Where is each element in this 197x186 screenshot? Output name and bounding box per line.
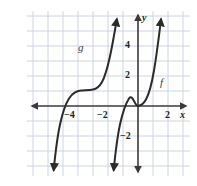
grid-lines bbox=[27, 11, 190, 176]
x-axis-label: x bbox=[180, 110, 185, 120]
x-tick-label-neg2: −2 bbox=[97, 110, 108, 120]
coordinate-plane bbox=[0, 0, 197, 186]
y-axis-label: y bbox=[142, 13, 146, 23]
curve-label-f: f bbox=[160, 77, 163, 88]
graph-figure: −4 −2 2 4 2 −2 x y g f bbox=[0, 0, 197, 186]
y-tick-label-2: 2 bbox=[125, 70, 130, 80]
x-tick-label-pos2: 2 bbox=[165, 110, 170, 120]
y-tick-label-neg2: −2 bbox=[120, 131, 131, 141]
x-tick-label-neg4: −4 bbox=[64, 110, 75, 120]
y-tick-label-4: 4 bbox=[125, 40, 130, 50]
curve-label-g: g bbox=[78, 42, 84, 53]
